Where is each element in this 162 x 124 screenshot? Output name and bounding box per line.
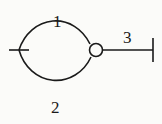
edge-2-lower-arc [19,50,91,80]
junction-node-circle [90,44,103,57]
edge-1-label: 1 [53,12,62,31]
edge-3-label: 3 [123,28,132,47]
graph-diagram: 1 2 3 [0,0,162,124]
edge-2-label: 2 [51,98,60,117]
